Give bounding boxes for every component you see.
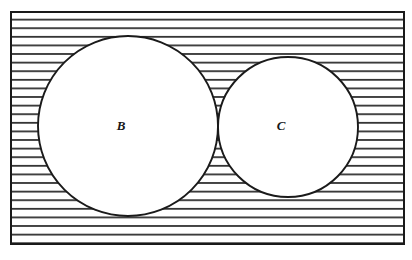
venn-diagram: B C [0,0,412,260]
venn-diagram-canvas: B C [0,0,412,260]
complement-region-horizontal-hatch [11,12,404,244]
circle-b-label: B [116,118,126,133]
circle-c-label: C [277,118,286,133]
